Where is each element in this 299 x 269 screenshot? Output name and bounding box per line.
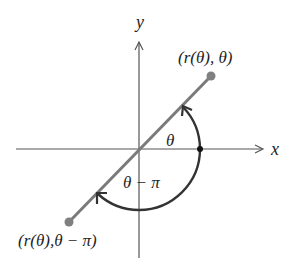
- diagram-svg: x y (r(θ), θ) (r(θ),θ − π) θ θ − π: [0, 0, 299, 269]
- x-axis-label: x: [270, 139, 279, 159]
- theta-minus-pi-label: θ − π: [123, 173, 160, 192]
- polar-diagram: x y (r(θ), θ) (r(θ),θ − π) θ θ − π: [0, 0, 299, 269]
- point-upper: [207, 72, 216, 81]
- point-lower: [65, 218, 74, 227]
- arc-start-dot: [197, 146, 203, 152]
- theta-label: θ: [166, 131, 174, 150]
- point-upper-label: (r(θ), θ): [178, 48, 233, 67]
- y-axis-label: y: [134, 12, 144, 32]
- theta-arc: [183, 107, 200, 149]
- point-lower-label: (r(θ),θ − π): [18, 231, 97, 250]
